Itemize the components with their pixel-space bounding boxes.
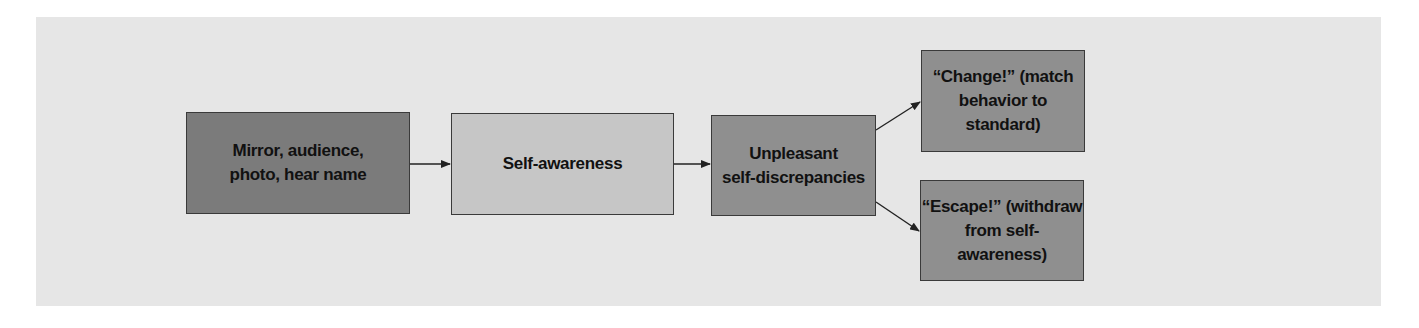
node-self-awareness-label: Self-awareness	[503, 152, 623, 176]
node-escape-line-2: from self-awareness)	[921, 219, 1083, 267]
node-triggers-line-2: photo, hear name	[230, 163, 367, 187]
node-triggers: Mirror, audience, photo, hear name	[186, 112, 410, 214]
node-self-awareness: Self-awareness	[451, 113, 674, 215]
arrow-discrepancies-to-escape	[876, 202, 919, 231]
node-change-line-1: “Change!” (match	[922, 65, 1084, 89]
node-discrepancies-line-1: Unpleasant	[722, 142, 865, 166]
node-discrepancies-line-2: self-discrepancies	[722, 166, 865, 190]
arrow-discrepancies-to-change	[876, 102, 920, 130]
node-change-line-2: behavior to standard)	[922, 89, 1084, 137]
node-triggers-line-1: Mirror, audience,	[230, 139, 367, 163]
node-change: “Change!” (match behavior to standard)	[921, 50, 1085, 152]
node-discrepancies: Unpleasant self-discrepancies	[711, 115, 876, 216]
node-escape: “Escape!” (withdraw from self-awareness)	[920, 180, 1084, 281]
node-escape-line-1: “Escape!” (withdraw	[921, 195, 1083, 219]
